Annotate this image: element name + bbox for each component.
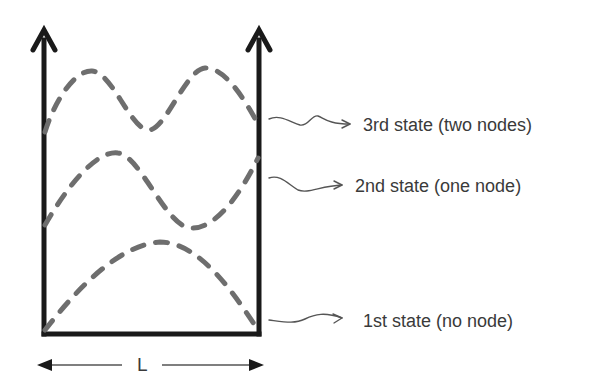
pointers [269, 116, 350, 323]
state-3-label: 3rd state (two nodes) [363, 116, 532, 134]
diagram-canvas [0, 0, 606, 392]
pointer-state-1 [269, 314, 342, 322]
wave-state-1 [45, 242, 258, 330]
length-arrow-right-icon [249, 359, 264, 371]
wave-state-3 [45, 68, 258, 132]
pointer-arrowhead-state-1-icon [333, 314, 342, 323]
length-dimension [37, 359, 264, 371]
pointer-state-3 [269, 116, 350, 125]
length-label: L [137, 355, 148, 374]
wavefunctions [45, 68, 258, 330]
state-2-label: 2nd state (one node) [355, 177, 521, 195]
pointer-state-2 [269, 177, 342, 191]
particle-in-box-diagram: L 3rd state (two nodes) 2nd state (one n… [0, 0, 606, 392]
length-arrow-left-icon [37, 359, 52, 371]
state-1-label: 1st state (no node) [363, 312, 513, 330]
wave-state-2 [45, 153, 258, 228]
